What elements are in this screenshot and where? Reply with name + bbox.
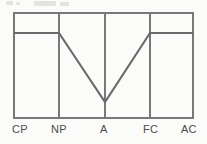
egogram-profile-line xyxy=(14,33,193,102)
egogram-chart xyxy=(0,0,207,144)
chart-frame xyxy=(14,13,193,118)
egogram-screenshot: CPNPAFCAC xyxy=(0,0,207,144)
